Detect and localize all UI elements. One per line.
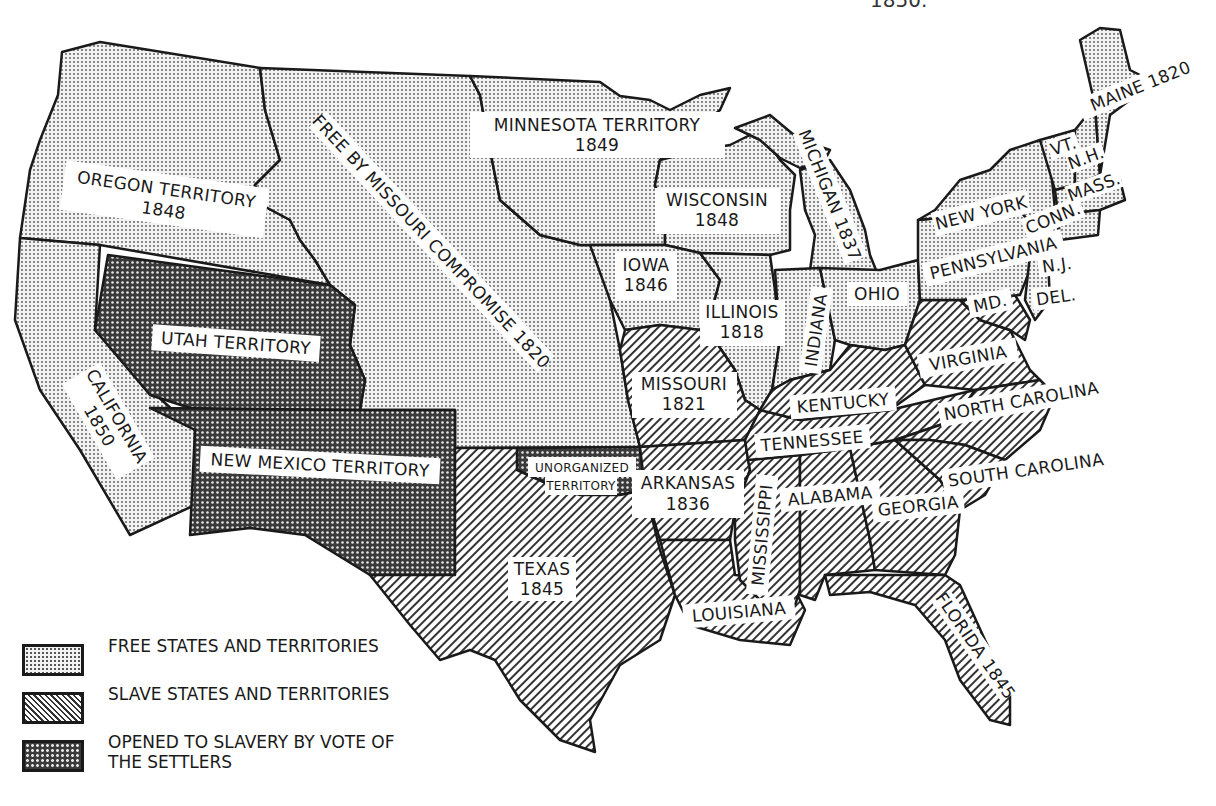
label-wisconsin-year: 1848: [695, 210, 739, 230]
label-illinois-year: 1818: [720, 322, 764, 342]
swatch-diagonal-lines-icon: [22, 692, 84, 724]
label-arkansas: ARKANSAS: [641, 473, 736, 493]
legend-item-popular-sovereignty: OPENED TO SLAVERY BY VOTE OF THE SETTLER…: [22, 736, 362, 786]
legend-label-slave: SLAVE STATES AND TERRITORIES: [108, 684, 428, 704]
label-unorganized-1: UNORGANIZED: [535, 461, 629, 475]
label-illinois: ILLINOIS: [705, 302, 778, 322]
label-iowa-year: 1846: [624, 275, 668, 295]
legend-item-slave: SLAVE STATES AND TERRITORIES: [22, 688, 362, 738]
legend-label-popular-sovereignty: OPENED TO SLAVERY BY VOTE OF THE SETTLER…: [108, 732, 428, 772]
region-new-mexico-territory: [150, 408, 455, 575]
label-missouri: MISSOURI: [641, 374, 727, 394]
legend-label-free: FREE STATES AND TERRITORIES: [108, 636, 428, 656]
label-texas-year: 1845: [520, 579, 564, 599]
label-texas: TEXAS: [513, 559, 571, 579]
label-missouri-year: 1821: [662, 394, 706, 414]
label-minnesota: MINNESOTA TERRITORY: [494, 115, 701, 135]
legend-item-free: FREE STATES AND TERRITORIES: [22, 640, 362, 690]
label-minnesota-year: 1849: [575, 135, 619, 155]
swatch-dots-icon: [22, 644, 84, 676]
label-ohio: OHIO: [854, 284, 900, 304]
label-arkansas-year: 1836: [666, 494, 710, 514]
swatch-crosshatch-icon: [22, 740, 84, 772]
label-wisconsin: WISCONSIN: [666, 190, 768, 210]
label-unorganized-2: TERRITORY: [545, 479, 616, 493]
label-new-jersey: N.J.: [1041, 253, 1073, 277]
label-iowa: IOWA: [622, 255, 669, 275]
